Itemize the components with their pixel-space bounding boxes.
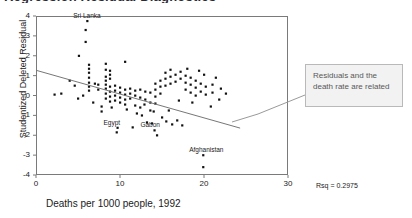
y-tick-label: 3: [12, 31, 30, 40]
y-tick-label: -3: [12, 150, 30, 159]
y-tick-label: 2: [12, 51, 30, 60]
point-label: Afghanistan: [189, 146, 223, 153]
point-label: Egypt: [103, 119, 120, 126]
rsq-value: Rsq = 0.2975: [316, 182, 358, 189]
y-tick-label: -2: [12, 130, 30, 139]
x-tick-label: 30: [278, 179, 298, 188]
figure-title-cropped: Regression Residual Diagnostics: [0, 0, 412, 3]
plot-area-frame: [36, 16, 288, 175]
callout-box: Residuals and the death rate are related: [305, 64, 403, 107]
x-axis-label: Deaths per 1000 people, 1992: [46, 198, 181, 209]
y-tick-label: 4: [12, 11, 30, 20]
x-tick-label: 10: [110, 179, 130, 188]
x-tick-label: 20: [194, 179, 214, 188]
y-tick-label: -4: [12, 170, 30, 179]
y-tick-label: -1: [12, 110, 30, 119]
point-label: Sri Lanka: [73, 12, 100, 19]
y-axis-label: Studentized Deleted Residual: [18, 0, 28, 164]
y-tick-label: 0: [12, 91, 30, 100]
y-tick-label: 1: [12, 71, 30, 80]
scatter-plot-figure: Regression Residual Diagnostics Studenti…: [0, 0, 412, 218]
point-label: Gabon: [140, 121, 160, 128]
x-tick-label: 0: [26, 179, 46, 188]
